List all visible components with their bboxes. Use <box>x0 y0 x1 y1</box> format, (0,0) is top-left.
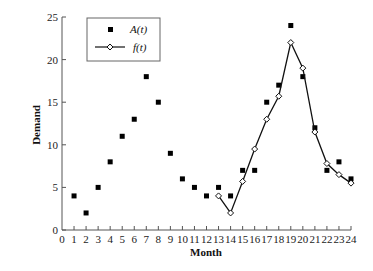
x-tick-label: 19 <box>285 233 297 245</box>
data-point-f <box>252 146 258 152</box>
x-tick-label: 10 <box>177 233 189 245</box>
x-tick-label: 23 <box>333 233 345 245</box>
data-point-a <box>156 100 161 105</box>
data-point-a <box>180 176 185 181</box>
data-point-f <box>300 65 306 71</box>
data-point-f <box>240 178 246 184</box>
data-point-a <box>240 168 245 173</box>
x-tick-label: 2 <box>83 233 89 245</box>
demand-chart: 0510152025012345678910111213141516171819… <box>0 0 373 271</box>
x-tick-label: 20 <box>297 233 309 245</box>
data-point-a <box>252 168 257 173</box>
y-tick-label: 25 <box>47 11 59 23</box>
x-tick-label: 4 <box>107 233 113 245</box>
y-tick-label: 0 <box>53 224 59 236</box>
x-tick-label: 12 <box>201 233 212 245</box>
data-point-a <box>228 193 233 198</box>
data-point-a <box>132 117 137 122</box>
data-point-a <box>204 193 209 198</box>
x-tick-label: 21 <box>309 233 320 245</box>
x-tick-label: 24 <box>346 233 358 245</box>
data-point-f <box>276 93 282 99</box>
data-point-f <box>288 40 294 46</box>
x-tick-label: 3 <box>95 233 101 245</box>
y-tick-label: 15 <box>47 96 59 108</box>
data-point-f <box>264 116 270 122</box>
x-tick-label: 7 <box>144 233 150 245</box>
y-tick-label: 20 <box>47 54 59 66</box>
x-tick-label: 9 <box>168 233 174 245</box>
series-f-line <box>216 40 354 216</box>
x-tick-label: 5 <box>119 233 125 245</box>
x-tick-label: 16 <box>249 233 261 245</box>
x-tick-label: 6 <box>132 233 138 245</box>
legend: A(t) f(t) <box>87 18 160 61</box>
x-axis-title: Month <box>190 246 222 258</box>
x-tick-label: 0 <box>59 233 65 245</box>
legend-label-a: A(t) <box>129 23 147 36</box>
x-tick-label: 14 <box>225 233 237 245</box>
data-point-a <box>336 159 341 164</box>
x-tick-label: 1 <box>71 233 77 245</box>
data-point-a <box>264 100 269 105</box>
data-point-a <box>192 185 197 190</box>
legend-box <box>87 18 160 61</box>
data-point-a <box>84 210 89 215</box>
data-point-a <box>324 168 329 173</box>
forecast-line <box>219 43 351 213</box>
data-point-a <box>288 23 293 28</box>
data-point-a <box>144 74 149 79</box>
data-point-a <box>72 193 77 198</box>
y-tick-label: 10 <box>47 139 59 151</box>
data-point-a <box>96 185 101 190</box>
legend-square-marker-icon <box>108 27 113 32</box>
x-tick-label: 22 <box>321 233 332 245</box>
y-tick-label: 5 <box>53 181 59 193</box>
x-tick-label: 8 <box>156 233 162 245</box>
x-tick-label: 13 <box>213 233 225 245</box>
data-point-a <box>120 134 125 139</box>
data-point-a <box>216 185 221 190</box>
x-tick-label: 15 <box>237 233 249 245</box>
legend-label-f: f(t) <box>133 41 147 54</box>
x-tick-label: 18 <box>273 233 285 245</box>
data-point-a <box>168 151 173 156</box>
data-point-a <box>108 159 113 164</box>
y-axis-title: Demand <box>30 105 42 145</box>
x-tick-label: 17 <box>261 233 273 245</box>
x-tick-label: 11 <box>189 233 200 245</box>
